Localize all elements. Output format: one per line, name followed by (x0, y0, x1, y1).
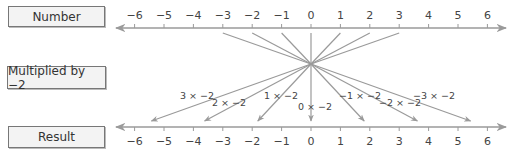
fan-line-top (252, 33, 311, 64)
top-tick-label: 2 (366, 9, 373, 22)
bottom-tick-label: −3 (215, 135, 231, 148)
fan-line-top (311, 33, 370, 64)
top-tick-label: 6 (484, 9, 491, 22)
bottom-tick-label: 1 (337, 135, 344, 148)
bottom-ticks: −6−5−4−3−2−10123456 (126, 127, 490, 148)
bottom-tick-label: 0 (308, 135, 315, 148)
mapping-label: −1 × −2 (339, 90, 381, 101)
fan-line-top (223, 33, 311, 64)
bottom-tick-label: −2 (244, 135, 260, 148)
top-tick-label: −5 (156, 9, 172, 22)
top-tick-label: 5 (455, 9, 462, 22)
top-tick-label: 4 (425, 9, 432, 22)
mapping-label: 1 × −2 (264, 90, 298, 101)
fan-line-top (311, 33, 399, 64)
bottom-tick-label: 5 (455, 135, 462, 148)
top-tick-label: 3 (396, 9, 403, 22)
bottom-tick-label: −1 (273, 135, 289, 148)
bottom-tick-label: 4 (425, 135, 432, 148)
bottom-tick-label: −5 (156, 135, 172, 148)
top-tick-label: −2 (244, 9, 260, 22)
top-tick-label: −3 (215, 9, 231, 22)
mapping-label: 0 × −2 (298, 101, 332, 112)
bottom-tick-label: −6 (126, 135, 142, 148)
bottom-tick-label: −4 (185, 135, 201, 148)
top-ticks: −6−5−4−3−2−10123456 (126, 9, 490, 28)
bottom-tick-label: 3 (396, 135, 403, 148)
top-tick-label: −6 (126, 9, 142, 22)
fan-lines-top (223, 33, 399, 64)
mapping-label: −3 × −2 (413, 90, 455, 101)
bottom-tick-label: 6 (484, 135, 491, 148)
bottom-number-line: −6−5−4−3−2−10123456 (116, 127, 506, 148)
mapping-label: 3 × −2 (180, 90, 214, 101)
top-number-line: −6−5−4−3−2−10123456 (116, 9, 506, 28)
bottom-tick-label: 2 (366, 135, 373, 148)
top-tick-label: 0 (308, 9, 315, 22)
number-line-diagram: −6−5−4−3−2−10123456 3 × −22 × −21 × −20 … (0, 0, 513, 153)
top-tick-label: −4 (185, 9, 201, 22)
mapping-label: 2 × −2 (212, 97, 246, 108)
top-tick-label: −1 (273, 9, 289, 22)
multiplication-labels: 3 × −22 × −21 × −20 × −2−1 × −2−2 × −2−3… (180, 90, 455, 112)
top-tick-label: 1 (337, 9, 344, 22)
